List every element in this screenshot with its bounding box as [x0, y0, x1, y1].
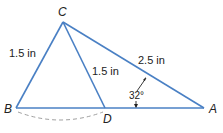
- length-label-cd: 1.5 in: [92, 65, 119, 77]
- point-label-c: C: [58, 5, 67, 19]
- point-label-d: D: [103, 112, 112, 126]
- length-label-ca: 2.5 in: [138, 54, 165, 66]
- length-label-cb: 1.5 in: [9, 47, 36, 59]
- segment-c-b: [16, 22, 63, 108]
- arc-b-d: [18, 112, 103, 120]
- angle-label-a: 32°: [129, 90, 144, 101]
- point-label-b: B: [4, 102, 12, 116]
- triangle-diagram: C B D A 1.5 in 1.5 in 2.5 in 32°: [0, 0, 223, 133]
- point-label-a: A: [208, 102, 217, 116]
